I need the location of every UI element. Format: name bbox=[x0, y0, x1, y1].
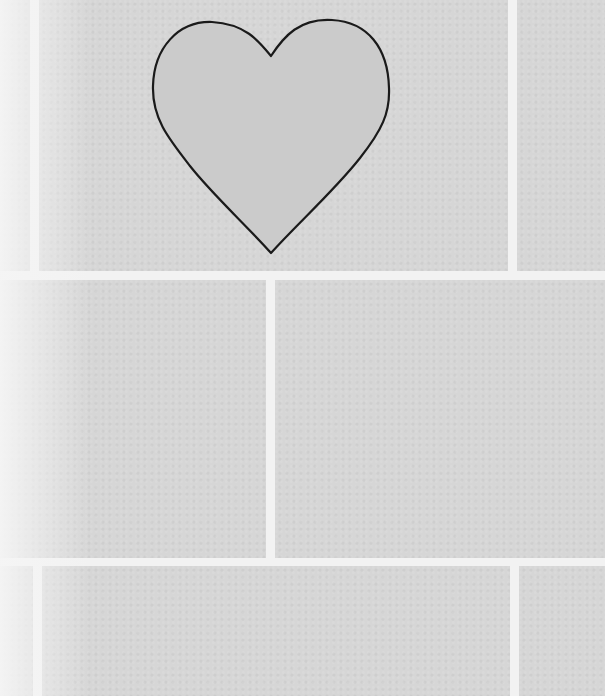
tile-row2-right bbox=[275, 280, 605, 558]
tiled-wall bbox=[0, 0, 605, 696]
tile-row3-center bbox=[42, 566, 510, 696]
tile-row3-left bbox=[0, 566, 33, 696]
tile-row1-left bbox=[0, 0, 30, 271]
heart-icon bbox=[150, 18, 392, 256]
tile-row1-right bbox=[517, 0, 605, 271]
tile-row3-right bbox=[519, 566, 605, 696]
tile-row2-left bbox=[0, 280, 266, 558]
